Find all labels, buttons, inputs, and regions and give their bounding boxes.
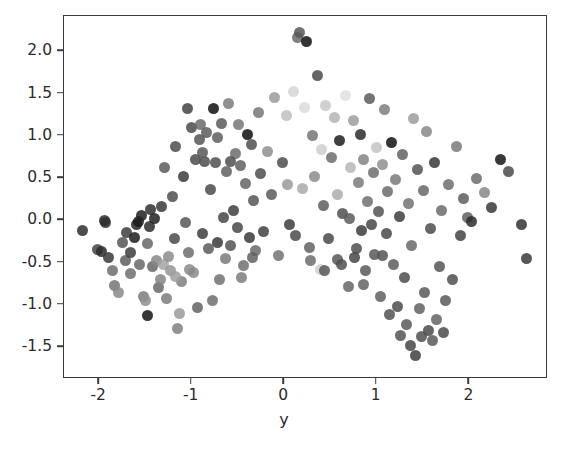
data-point (340, 90, 351, 101)
data-point (414, 303, 425, 314)
data-point (172, 323, 183, 334)
x-tick-mark (97, 378, 99, 384)
data-point (178, 171, 189, 182)
data-point (205, 184, 216, 195)
data-point (129, 232, 140, 243)
data-point (397, 149, 408, 160)
data-point (125, 268, 136, 279)
data-point (344, 213, 355, 224)
y-tick-label: 1.0 (27, 126, 52, 144)
data-point (142, 238, 153, 249)
data-point (221, 166, 232, 177)
data-point (373, 206, 384, 217)
data-point (77, 225, 88, 236)
data-point (455, 230, 466, 241)
data-point (212, 132, 223, 143)
data-point (318, 200, 329, 211)
data-point (207, 295, 218, 306)
data-point (436, 205, 447, 216)
y-tick-label: -1.5 (22, 337, 52, 355)
x-tick-mark (282, 378, 284, 384)
y-tick-label: 2.0 (27, 41, 52, 59)
data-point (425, 223, 436, 234)
data-point (235, 160, 246, 171)
data-point (214, 274, 225, 285)
data-point (438, 327, 449, 338)
data-point (297, 183, 308, 194)
data-point (343, 281, 354, 292)
data-point (423, 325, 434, 336)
data-point (220, 253, 231, 264)
data-point (223, 98, 234, 109)
data-point (236, 272, 247, 283)
data-point (192, 302, 203, 313)
data-point (309, 171, 320, 182)
data-point (170, 141, 181, 152)
data-point (117, 237, 128, 248)
data-point (113, 287, 124, 298)
data-point (429, 157, 440, 168)
x-tick-label: -2 (90, 386, 105, 404)
data-point (107, 265, 118, 276)
data-point (262, 146, 273, 157)
data-point (246, 139, 257, 150)
data-point (516, 219, 527, 230)
data-point (174, 308, 185, 319)
data-point (410, 350, 421, 361)
data-point (419, 287, 430, 298)
data-point (390, 174, 401, 185)
x-tick-mark (468, 378, 470, 384)
data-point (201, 127, 212, 138)
data-point (304, 242, 315, 253)
data-point (486, 202, 497, 213)
data-point (382, 186, 393, 197)
data-point (99, 215, 110, 226)
data-point (142, 310, 153, 321)
data-point (290, 230, 301, 241)
data-point (371, 142, 382, 153)
data-point (253, 107, 264, 118)
data-point (218, 212, 229, 223)
data-point (248, 195, 259, 206)
x-tick-label: -1 (183, 386, 198, 404)
data-point (163, 251, 174, 262)
plot-area (63, 15, 547, 378)
y-tick-label: -0.5 (22, 253, 52, 271)
data-point (364, 93, 375, 104)
data-point (412, 164, 423, 175)
data-point (345, 162, 356, 173)
x-tick-mark (190, 378, 192, 384)
data-point (212, 237, 223, 248)
data-point (521, 253, 532, 264)
data-point (377, 159, 388, 170)
data-point (210, 157, 221, 168)
data-point (288, 86, 299, 97)
data-point (182, 103, 193, 114)
data-point (233, 119, 244, 130)
data-point (155, 274, 166, 285)
data-point (406, 240, 417, 251)
data-point (362, 196, 373, 207)
data-point (471, 173, 482, 184)
data-point (447, 274, 458, 285)
data-point (316, 144, 327, 155)
data-point (156, 201, 167, 212)
data-point (348, 115, 359, 126)
data-point (403, 198, 414, 209)
data-point (399, 272, 410, 283)
data-point (334, 135, 345, 146)
x-axis-label: y (0, 410, 568, 429)
data-point (301, 36, 312, 47)
data-point (323, 233, 334, 244)
data-point (353, 177, 364, 188)
x-tick-label: 1 (371, 386, 381, 404)
data-point (180, 217, 191, 228)
data-point (431, 314, 442, 325)
data-point (366, 219, 377, 230)
data-point (368, 167, 379, 178)
data-point (169, 233, 180, 244)
y-tick-label: -1.0 (22, 295, 52, 313)
data-point (170, 271, 181, 282)
data-point (149, 213, 160, 224)
data-point (360, 265, 371, 276)
